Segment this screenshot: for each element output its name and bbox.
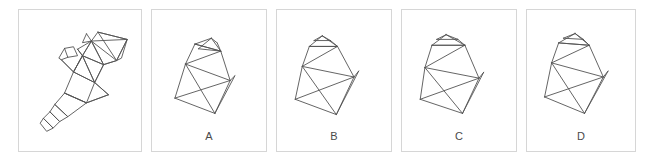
net-figure — [19, 10, 141, 151]
option-label-d: D — [527, 130, 635, 142]
net-panel — [18, 9, 142, 152]
option-label-a: A — [152, 130, 266, 142]
spatial-reasoning-question: A B C D — [0, 0, 652, 161]
net-drawing — [19, 10, 141, 151]
option-panel-c[interactable]: C — [401, 9, 517, 152]
option-label-c: C — [402, 130, 516, 142]
option-label-b: B — [277, 130, 391, 142]
option-panel-b[interactable]: B — [276, 9, 392, 152]
option-panel-d[interactable]: D — [526, 9, 636, 152]
option-panel-a[interactable]: A — [151, 9, 267, 152]
